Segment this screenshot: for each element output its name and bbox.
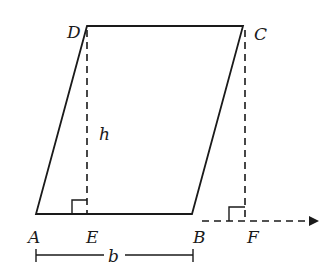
- label-d: D: [66, 22, 81, 42]
- parallelogram-diagram: D C A E B F h b: [0, 0, 329, 279]
- right-angle-marker-e: [72, 200, 87, 214]
- label-a: A: [26, 227, 40, 247]
- label-f: F: [246, 227, 260, 247]
- label-b: B: [192, 227, 206, 247]
- label-base: b: [108, 246, 119, 266]
- parallelogram-abcd: [36, 26, 243, 214]
- label-c: C: [254, 24, 267, 44]
- label-height: h: [99, 124, 110, 144]
- label-e: E: [85, 227, 99, 247]
- right-angle-marker-f: [229, 207, 245, 221]
- arrow-head-icon: [309, 216, 319, 226]
